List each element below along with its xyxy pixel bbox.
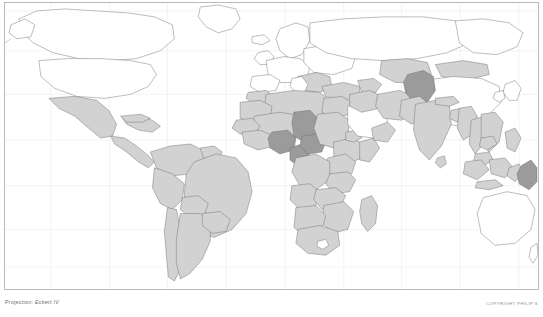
region-russia bbox=[310, 17, 473, 61]
region-madagascar bbox=[360, 196, 378, 232]
region-somalia bbox=[360, 138, 380, 162]
region-south-africa bbox=[296, 225, 340, 255]
projection-label-prefix: Projection: bbox=[5, 299, 33, 305]
region-russia-east bbox=[455, 19, 523, 55]
world-map-svg[interactable] bbox=[5, 3, 538, 289]
region-new-zealand bbox=[529, 243, 538, 263]
region-japan bbox=[503, 80, 521, 100]
region-iceland bbox=[252, 35, 270, 45]
world-map-figure: Projection: Eckert IV COPYRIGHT PHILIP'S bbox=[0, 0, 543, 317]
map-caption-row: Projection: Eckert IV COPYRIGHT PHILIP'S bbox=[0, 292, 543, 317]
region-philippines bbox=[505, 128, 521, 152]
copyright-label: COPYRIGHT PHILIP'S bbox=[486, 301, 538, 306]
region-sri-lanka bbox=[435, 156, 446, 168]
projection-label: Projection: Eckert IV bbox=[5, 299, 59, 305]
region-papua-new-guinea bbox=[517, 160, 537, 190]
region-java bbox=[475, 180, 503, 190]
coastline-accent-layer bbox=[5, 39, 11, 43]
region-australia bbox=[477, 192, 535, 246]
landmass-layer bbox=[9, 5, 538, 281]
region-cambodia bbox=[479, 136, 497, 150]
region-central-america bbox=[111, 136, 155, 168]
region-mexico bbox=[49, 96, 117, 138]
region-canada bbox=[19, 9, 174, 61]
region-india bbox=[413, 100, 451, 160]
region-united-states bbox=[39, 59, 157, 99]
map-frame bbox=[4, 2, 539, 290]
region-greenland bbox=[198, 5, 240, 33]
projection-name: Eckert IV bbox=[35, 299, 59, 305]
